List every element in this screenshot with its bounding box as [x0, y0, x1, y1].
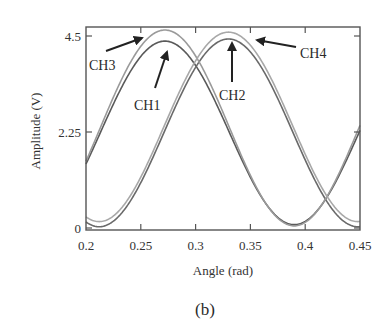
chart-figure: 0.20.250.30.350.40.4502.254.5 CH3CH1CH2C…	[0, 0, 392, 332]
x-tick-label: 0.35	[239, 238, 262, 253]
x-tick-label: 0.45	[349, 238, 372, 253]
y-tick-label: 0	[75, 221, 82, 236]
label-ch2: CH2	[219, 88, 245, 103]
label-ch1: CH1	[134, 98, 160, 113]
annotations-layer: CH3CH1CH2CH4	[89, 38, 326, 113]
x-tick-label: 0.3	[187, 238, 203, 253]
arrow-ch1	[155, 52, 167, 88]
arrow-ch3	[106, 38, 142, 51]
y-tick-label: 2.25	[58, 125, 81, 140]
x-tick-label: 0.25	[129, 238, 152, 253]
x-tick-label: 0.2	[78, 238, 94, 253]
y-axis-label: Amplitude (V)	[28, 93, 43, 170]
x-tick-label: 0.4	[297, 238, 314, 253]
panel-label: (b)	[195, 300, 215, 319]
y-tick-label: 4.5	[65, 29, 81, 44]
label-ch4: CH4	[300, 46, 326, 61]
label-ch3: CH3	[89, 58, 115, 73]
x-axis-label: Angle (rad)	[193, 263, 253, 278]
arrow-ch4	[257, 40, 296, 47]
